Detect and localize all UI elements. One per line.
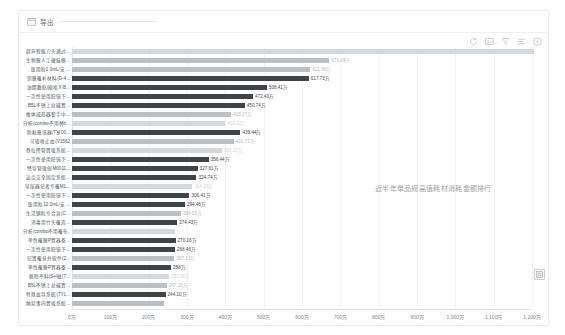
- bar[interactable]: [72, 175, 196, 180]
- bar-row[interactable]: 一次性使用腔镜下...472.43万: [19, 92, 550, 101]
- bar-row-label[interactable]: 可吸收止血(V1562: [23, 137, 70, 146]
- x-axis-tick: 200万: [142, 313, 155, 320]
- bar-row-label[interactable]: 一次性使用腔镜下...: [23, 245, 70, 254]
- bar-row[interactable]: 经导管微创M0011...327.61万: [19, 164, 550, 173]
- bar-row-label[interactable]: 超声智能刀头通过...: [23, 47, 70, 56]
- bar-row-label[interactable]: B5L不锈上总碱置...: [23, 101, 70, 110]
- bar-row-label[interactable]: 钽膜覆补材料(D-4...: [23, 74, 70, 83]
- bar-track: 508.41万: [72, 83, 532, 92]
- bar-row-label[interactable]: 分析(combo不用覆布...: [23, 227, 70, 236]
- bar-track: 356.44万: [72, 155, 532, 164]
- bar-row[interactable]: 超声智能刀头通过...: [19, 47, 550, 56]
- bar-row[interactable]: 远点交全固定系统...324.74万: [19, 173, 550, 182]
- bar-row[interactable]: B5L不锈上总碱置...450.74万: [19, 101, 550, 110]
- bar-row[interactable]: 单性覆膜P置器备...258万: [19, 263, 550, 272]
- bar-row[interactable]: 特殊血导系统(7Y1...244.10万: [19, 290, 550, 299]
- bar-row-label[interactable]: 远点交全固定系统...: [23, 173, 70, 182]
- bar-row-label[interactable]: 医用粒2.0mL/支 ...: [23, 65, 70, 74]
- bar-row[interactable]: 一次性使用腔镜下...356.44万: [19, 155, 550, 164]
- bar[interactable]: [72, 103, 245, 108]
- x-axis-tick: 1,200万: [523, 313, 541, 320]
- bar-row-label[interactable]: 一次性使用腔镜下...: [23, 191, 70, 200]
- bar-row[interactable]: 分析(combo不用替b...400.22万: [19, 119, 550, 128]
- bar-row[interactable]: 椎体成形器套手中...415.27万: [19, 110, 550, 119]
- bar[interactable]: [72, 220, 177, 225]
- bar[interactable]: [72, 148, 222, 153]
- bar-row-label[interactable]: 生物膜人工硬脑膜...: [23, 56, 70, 65]
- card-header: 导出: [19, 11, 548, 33]
- download-icon[interactable]: [533, 37, 542, 46]
- bar-row[interactable]: 分析(combo不用覆布...: [19, 227, 550, 236]
- bar-row-label[interactable]: 椎体成形器套手中...: [23, 110, 70, 119]
- bar-row-label[interactable]: 防粘膜或器(T室00...: [23, 128, 70, 137]
- bar[interactable]: [72, 193, 189, 198]
- bar-row[interactable]: 防粘膜或器(T室00...439.44万: [19, 128, 550, 137]
- bar-row[interactable]: 生活钢粒专合治(C...284.03万: [19, 209, 550, 218]
- bar-row-label[interactable]: 骨位所管置吸系统...: [23, 146, 70, 155]
- bar-row-label[interactable]: 一次性使用腔镜下...: [23, 92, 70, 101]
- bar-row-label[interactable]: 单性覆膜P置器备...: [23, 263, 70, 272]
- bar-row-label[interactable]: 消毒用竹头覆造...: [23, 218, 70, 227]
- bar-row[interactable]: B5L不锈上总碱置...247.20万: [19, 281, 550, 290]
- bar[interactable]: [72, 67, 310, 72]
- bar-row[interactable]: 医用粒12.0mL/支 ...294.46万: [19, 200, 550, 209]
- bar-track: 671.14万: [72, 56, 532, 65]
- bar[interactable]: [72, 112, 231, 117]
- bar-row-label[interactable]: 纳尼事内置吸系统...: [23, 299, 70, 308]
- bar[interactable]: [72, 121, 225, 126]
- bar-row-label[interactable]: 单性覆膜P置器备...: [23, 236, 70, 245]
- bar-row[interactable]: 纳尼事内置吸系统...: [19, 299, 550, 308]
- bar[interactable]: [72, 94, 253, 99]
- bar-row[interactable]: 生物膜人工硬脑膜...671.14万: [19, 56, 550, 65]
- bar-track: 450.74万: [72, 101, 532, 110]
- bar-row[interactable]: 一次性使用腔镜下...268.46万: [19, 245, 550, 254]
- data-view-icon[interactable]: [517, 37, 526, 46]
- bar-row-label[interactable]: 油脂敷贴(规格X-B...: [23, 83, 70, 92]
- bar-row-label[interactable]: 医用粒12.0mL/支 ...: [23, 200, 70, 209]
- bar-row[interactable]: 骨位所管置吸系统...390.15万: [19, 146, 550, 155]
- image-save-icon[interactable]: [485, 37, 494, 46]
- bar[interactable]: [72, 184, 192, 189]
- bar-row[interactable]: 油脂敷贴(规格X-B...508.41万: [19, 83, 550, 92]
- filter-icon[interactable]: [501, 37, 510, 46]
- chart-annotation: 近半年单品规高值耗材消耗金额排行: [375, 183, 492, 193]
- bar[interactable]: [72, 157, 209, 162]
- bar-row[interactable]: 消毒用竹头覆造...274.43万: [19, 218, 550, 227]
- bar-row-label[interactable]: 脱除不料(S+/磁(7...: [23, 272, 70, 281]
- bar[interactable]: [72, 202, 185, 207]
- bar[interactable]: [72, 265, 171, 270]
- bar[interactable]: [72, 49, 534, 54]
- bar-row-label[interactable]: 记置覆身并软件(2...: [23, 254, 70, 263]
- bar[interactable]: [72, 256, 174, 261]
- bar[interactable]: [72, 301, 164, 306]
- bar[interactable]: [72, 247, 175, 252]
- bar[interactable]: [72, 292, 166, 297]
- bar[interactable]: [72, 166, 198, 171]
- fullscreen-icon[interactable]: [534, 269, 545, 280]
- bar[interactable]: [72, 58, 329, 63]
- bar-row[interactable]: 可吸收止血(V1562421.71万: [19, 137, 550, 146]
- bar-row-label[interactable]: B5L不锈上总碱置...: [23, 281, 70, 290]
- bar-row[interactable]: 医用粒2.0mL/支 ...621.96万: [19, 65, 550, 74]
- bar[interactable]: [72, 283, 167, 288]
- bar[interactable]: [72, 229, 175, 234]
- bar-row-label[interactable]: 导尿器记者专覆M1...: [23, 182, 70, 191]
- bar-row-label[interactable]: 经导管微创M0011...: [23, 164, 70, 173]
- refresh-icon[interactable]: [469, 37, 478, 46]
- bar-row-label[interactable]: 分析(combo不用替b...: [23, 119, 70, 128]
- bar[interactable]: [72, 130, 240, 135]
- bar[interactable]: [72, 139, 234, 144]
- bar-row-label[interactable]: 生活钢粒专合治(C...: [23, 209, 70, 218]
- bar-row-label[interactable]: 特殊血导系统(7Y1...: [23, 290, 70, 299]
- bar-value-label: 450.74万: [245, 101, 266, 110]
- bar-row[interactable]: 钽膜覆补材料(D-4...617.73万: [19, 74, 550, 83]
- bar-row-label[interactable]: 一次性使用腔镜下...: [23, 155, 70, 164]
- bar[interactable]: [72, 211, 181, 216]
- bar[interactable]: [72, 85, 267, 90]
- bar[interactable]: [72, 238, 176, 243]
- bar-row[interactable]: 记置覆身并软件(2...267.13万: [19, 254, 550, 263]
- bar[interactable]: [72, 76, 309, 81]
- bar-row[interactable]: 脱除不料(S+/磁(7...253.66万: [19, 272, 550, 281]
- bar[interactable]: [72, 274, 169, 279]
- bar-row[interactable]: 单性覆膜P置器备...270.16万: [19, 236, 550, 245]
